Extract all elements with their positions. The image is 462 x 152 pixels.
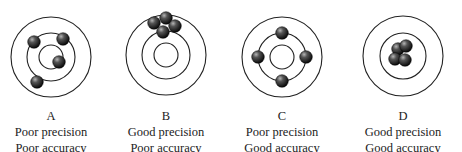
shot-ball-icon xyxy=(400,40,413,53)
target-a-precision: Poor precision xyxy=(0,126,111,139)
target-d-letter: D xyxy=(343,110,462,123)
shot-ball-icon xyxy=(276,75,289,88)
shot-ball-icon xyxy=(300,51,313,64)
shot-ball-icon xyxy=(28,36,41,49)
shot-ball-icon xyxy=(31,76,44,89)
shot-ball-icon xyxy=(276,27,289,40)
target-ring-icon xyxy=(258,33,306,81)
target-b-letter: B xyxy=(106,110,226,123)
target-c xyxy=(242,17,322,97)
target-d-precision: Good precision xyxy=(343,126,462,139)
target-d xyxy=(363,16,443,96)
shot-ball-icon xyxy=(169,20,182,33)
target-ring-icon xyxy=(154,43,178,67)
target-c-precision: Poor precision xyxy=(222,126,342,139)
shot-ball-icon xyxy=(57,33,70,46)
target-a-letter: A xyxy=(0,110,111,123)
target-b-accuracy: Poor accuracy xyxy=(106,142,226,152)
target-ring-icon xyxy=(270,45,294,69)
shot-ball-icon xyxy=(157,26,170,39)
shot-ball-icon xyxy=(399,54,412,67)
target-ring-icon xyxy=(11,17,91,97)
target-c-accuracy: Good accuracy xyxy=(222,142,342,152)
target-b-precision: Good precision xyxy=(106,126,226,139)
shot-ball-icon xyxy=(252,51,265,64)
target-b xyxy=(126,12,206,95)
target-a-accuracy: Poor accuracy xyxy=(0,142,111,152)
target-ring-icon xyxy=(142,31,190,79)
shot-ball-icon xyxy=(53,56,66,69)
target-a xyxy=(11,17,91,97)
target-c-letter: C xyxy=(222,110,342,123)
target-d-accuracy: Good accuracy xyxy=(343,142,462,152)
